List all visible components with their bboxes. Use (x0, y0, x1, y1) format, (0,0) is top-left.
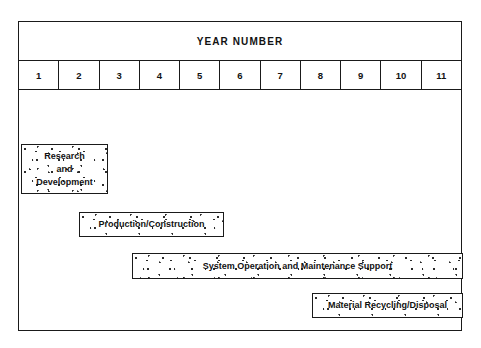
year-cell-1: 1 (19, 61, 59, 89)
year-cell-5: 5 (180, 61, 220, 89)
year-number-axis-row: 1 2 3 4 5 6 7 8 9 10 11 (19, 60, 461, 90)
phase-bar-production-construction: Production/Construction (79, 212, 224, 237)
year-number-header: YEAR NUMBER (19, 22, 461, 60)
phase-bar-research-development: Research and Development (21, 144, 108, 194)
chart-title: YEAR NUMBER (197, 36, 284, 47)
year-cell-7: 7 (261, 61, 301, 89)
year-cell-8: 8 (301, 61, 341, 89)
year-cell-3: 3 (100, 61, 140, 89)
phase-bar-material-recycling: Material Recycling/Disposal (312, 293, 463, 318)
phase-label-production-construction: Production/Construction (97, 218, 207, 231)
year-cell-10: 10 (381, 61, 421, 89)
life-cycle-chart-frame: YEAR NUMBER 1 2 3 4 5 6 7 8 9 10 11 Rese… (18, 21, 462, 331)
year-cell-11: 11 (422, 61, 461, 89)
phase-bar-system-operation: System Operation and Maintenance Support (132, 253, 463, 279)
year-cell-6: 6 (220, 61, 260, 89)
year-cell-2: 2 (59, 61, 99, 89)
year-cell-9: 9 (341, 61, 381, 89)
phase-label-research-development: Research and Development (34, 150, 95, 189)
phase-bars-area: Research and Development Production/Cons… (19, 90, 461, 330)
phase-label-system-operation: System Operation and Maintenance Support (201, 260, 395, 273)
year-cell-4: 4 (140, 61, 180, 89)
phase-label-material-recycling: Material Recycling/Disposal (326, 299, 449, 312)
